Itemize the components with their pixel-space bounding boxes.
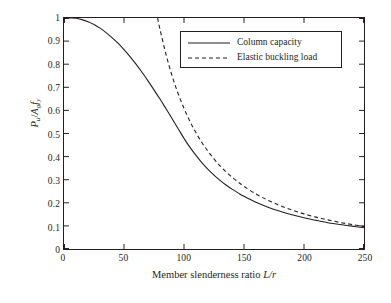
legend: Column capacity Elastic buckling load [180,31,342,68]
xtick-label-0: 0 [38,254,88,264]
ytick-label-02: 0.2 [20,200,60,210]
xtick-label-50: 50 [98,254,148,264]
x-axis-title-text: Member slenderness ratio [152,269,263,280]
y-axis-title: Pu/Agfy [30,83,42,143]
y-axis-sub-y: y [34,99,42,102]
legend-entry-elastic-buckling-load: Elastic buckling load [187,50,317,65]
figure-chart-column-capacity: 1 0.9 0.8 0.7 0.6 0.5 0.4 0.3 0.2 0.1 0 … [0,0,391,303]
y-axis-sym-a: A [29,108,40,114]
ytick-label-08: 0.8 [20,61,60,71]
ytick-label-04: 0.4 [20,154,60,164]
ytick-label-03: 0.3 [20,177,60,187]
legend-entry-column-capacity: Column capacity [187,35,302,50]
ytick-label-09: 0.9 [20,37,60,47]
y-axis-sub-u: u [34,118,42,122]
legend-swatch-dashed-line-icon [187,53,231,63]
xtick-label-200: 200 [280,254,330,264]
x-axis-title: Member slenderness ratio L/r [63,270,365,281]
xtick-label-250: 250 [340,254,390,264]
y-axis-slash: / [29,115,40,118]
legend-label-column-capacity: Column capacity [231,38,302,48]
ytick-label-1: 1 [20,14,60,24]
legend-swatch-solid-line-icon [187,38,231,48]
legend-label-elastic-buckling-load: Elastic buckling load [231,53,317,63]
ytick-label-01: 0.1 [20,224,60,234]
y-axis-sym-p: P [29,121,40,127]
xtick-label-100: 100 [159,254,209,264]
xtick-label-150: 150 [219,254,269,264]
y-axis-sub-g: g [34,105,42,109]
x-axis-title-symbol: L/r [263,269,276,280]
y-axis-sym-f: f [29,102,40,105]
